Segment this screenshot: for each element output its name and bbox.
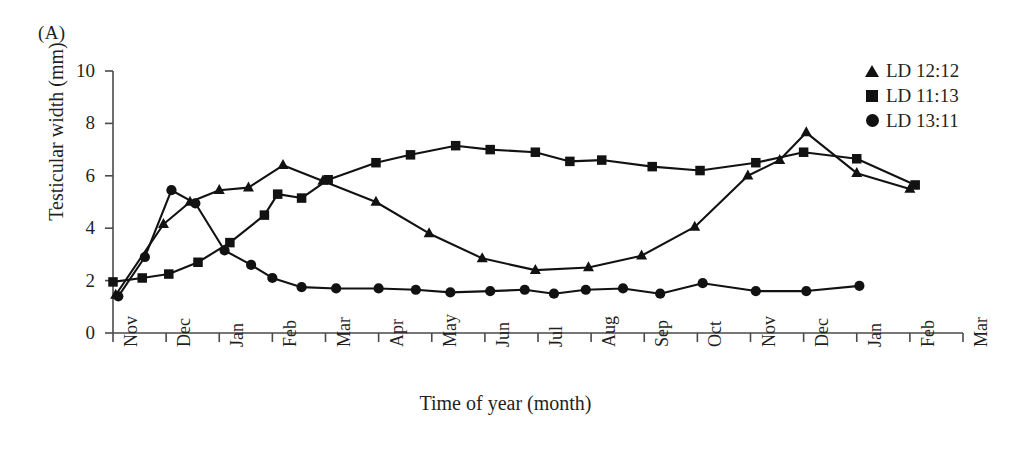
data-point-square: [260, 210, 270, 220]
data-point-circle: [751, 286, 761, 296]
axes: [105, 71, 963, 342]
data-point-triangle: [801, 126, 812, 136]
data-series: [110, 126, 915, 298]
data-point-square: [751, 158, 761, 168]
data-point-circle: [698, 278, 708, 288]
legend-item[interactable]: LD 11:13: [862, 83, 1011, 108]
data-point-circle: [655, 289, 665, 299]
data-point-square: [108, 277, 118, 287]
data-point-square: [371, 158, 381, 168]
x-tick-label: Aug: [599, 316, 620, 347]
data-point-triangle: [278, 159, 289, 169]
x-tick-label: Mar: [971, 317, 992, 347]
chart-legend: LD 12:12LD 11:13LD 13:11: [862, 58, 1011, 133]
data-point-circle: [113, 291, 123, 301]
y-tick-label: 6: [61, 166, 95, 185]
data-point-circle: [296, 282, 306, 292]
x-tick-label: Jun: [493, 322, 514, 347]
data-point-circle: [190, 198, 200, 208]
x-tick-label: Jan: [865, 323, 886, 347]
data-point-square: [193, 258, 203, 268]
y-tick-label: 2: [61, 271, 95, 290]
data-point-circle: [267, 273, 277, 283]
data-point-square: [164, 269, 174, 279]
circle-marker-icon: [862, 114, 882, 127]
data-point-circle: [854, 281, 864, 291]
x-tick-label: Apr: [387, 319, 408, 347]
data-point-circle: [140, 252, 150, 262]
x-tick-label: May: [440, 314, 461, 347]
x-tick-label: Dec: [812, 318, 833, 347]
x-tick-label: Nov: [121, 316, 142, 347]
x-tick-label: Nov: [759, 316, 780, 347]
data-point-square: [531, 147, 541, 157]
data-point-square: [273, 189, 283, 199]
data-point-triangle: [243, 181, 254, 191]
data-point-square: [910, 180, 920, 190]
data-point-circle: [581, 285, 591, 295]
x-tick-label: Jul: [546, 326, 567, 347]
x-tick-label: Sep: [652, 320, 673, 347]
y-tick-label: 10: [61, 61, 95, 80]
data-point-square: [852, 154, 862, 164]
data-point-circle: [246, 260, 256, 270]
data-point-square: [597, 155, 607, 165]
data-point-circle: [219, 245, 229, 255]
data-point-square: [565, 157, 575, 167]
series-layer: [108, 126, 920, 301]
data-point-square: [695, 166, 705, 176]
data-point-circle: [549, 289, 559, 299]
x-tick-label: Oct: [705, 321, 726, 347]
square-marker-icon: [862, 90, 882, 102]
x-tick-label: Jan: [227, 323, 248, 347]
data-point-circle: [331, 283, 341, 293]
triangle-marker-icon: [862, 65, 882, 77]
data-point-square: [406, 150, 416, 160]
plot-area: [0, 0, 1011, 455]
data-point-triangle: [851, 167, 862, 177]
data-point-square: [485, 145, 495, 155]
x-tick-label: Feb: [918, 320, 939, 347]
data-point-square: [137, 273, 147, 283]
data-point-circle: [485, 286, 495, 296]
legend-item-label: LD 12:12: [886, 60, 959, 82]
data-point-circle: [374, 283, 384, 293]
data-point-square: [323, 175, 333, 185]
legend-item[interactable]: LD 13:11: [862, 108, 1011, 133]
data-point-square: [297, 193, 307, 203]
legend-item-label: LD 13:11: [886, 110, 959, 132]
y-tick-label: 0: [61, 323, 95, 342]
x-tick-label: Feb: [280, 320, 301, 347]
y-tick-label: 8: [61, 113, 95, 132]
data-point-circle: [166, 185, 176, 195]
data-point-circle: [618, 283, 628, 293]
data-point-square: [451, 141, 461, 151]
chart-figure: (A) Testicular width (mm) Time of year (…: [0, 0, 1011, 455]
data-point-circle: [520, 285, 530, 295]
data-point-square: [799, 147, 809, 157]
x-tick-label: Dec: [174, 318, 195, 347]
x-tick-label: Mar: [334, 317, 355, 347]
data-point-square: [647, 162, 657, 172]
data-point-circle: [411, 285, 421, 295]
legend-item[interactable]: LD 12:12: [862, 58, 1011, 83]
data-point-circle: [445, 287, 455, 297]
y-tick-label: 4: [61, 218, 95, 237]
legend-item-label: LD 11:13: [886, 85, 959, 107]
data-point-circle: [801, 286, 811, 296]
